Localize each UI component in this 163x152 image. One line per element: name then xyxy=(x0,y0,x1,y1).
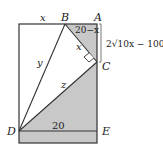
point-c-label: C xyxy=(102,60,111,73)
point-d-label: D xyxy=(6,125,16,138)
label-x-bc: x xyxy=(76,41,82,52)
label-20-minus-x: 20−x xyxy=(75,25,99,35)
point-b-label: B xyxy=(60,11,69,24)
label-ac-length: 2√10x − 100 xyxy=(106,39,163,49)
point-e-label: E xyxy=(101,125,110,138)
folded-paper-diagram: B A C D E x 20−x x y z 20 2√10x − 100 xyxy=(0,0,163,152)
label-y: y xyxy=(36,57,43,68)
label-20: 20 xyxy=(52,120,65,131)
label-x-top: x xyxy=(40,12,46,23)
label-z: z xyxy=(60,79,67,90)
point-a-label: A xyxy=(93,11,102,24)
